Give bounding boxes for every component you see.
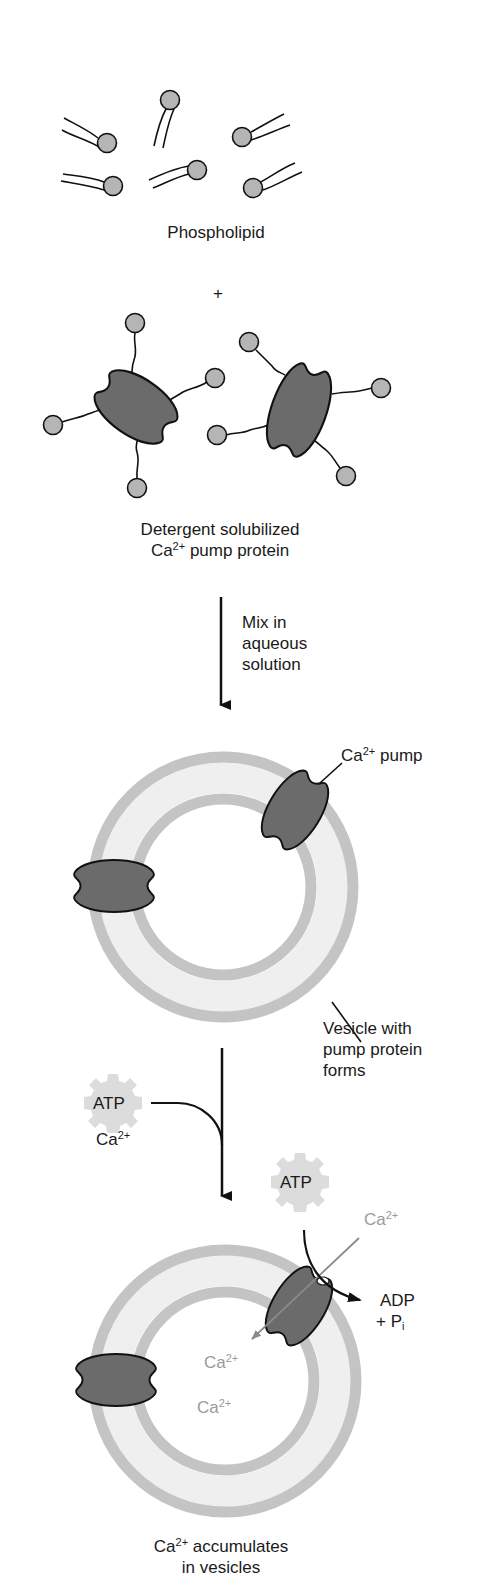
- adp-label: ADP: [380, 1290, 415, 1311]
- ca-inside-label-2: Ca2+: [197, 1397, 231, 1418]
- phospholipid-icon: [154, 91, 180, 149]
- detergent-protein-label: Detergent solubilized Ca2+ pump protein: [141, 519, 300, 561]
- ca-outside-label: Ca2+: [364, 1209, 398, 1230]
- detergent-protein-1: [44, 314, 225, 498]
- vesicle-1: [74, 757, 361, 1042]
- result-label: Ca2+ accumulates in vesicles: [154, 1536, 288, 1578]
- phospholipid-group: [61, 91, 302, 198]
- ca-inside-label-1: Ca2+: [204, 1352, 238, 1373]
- mix-step-label: Mix in aqueous solution: [242, 612, 307, 675]
- phospholipid-label: Phospholipid: [167, 222, 264, 243]
- atp-label-2: ATP: [280, 1172, 312, 1193]
- vesicle-2: [76, 1153, 360, 1512]
- ca-input-label: Ca2+: [96, 1129, 130, 1150]
- atp-label-1: ATP: [93, 1093, 125, 1114]
- phospholipid-icon: [62, 118, 117, 153]
- pi-label: + Pi: [376, 1311, 404, 1332]
- phospholipid-icon: [61, 174, 123, 196]
- detergent-protein-2: [208, 333, 391, 486]
- phospholipid-icon: [233, 114, 291, 147]
- atp-arrow: [84, 1048, 222, 1196]
- pump-protein-icon: [74, 860, 154, 912]
- plus-sign: +: [213, 283, 223, 304]
- pump-protein-icon: [76, 1354, 156, 1406]
- phospholipid-icon: [244, 163, 303, 198]
- phospholipid-icon: [149, 161, 207, 189]
- ca-pump-label: Ca2+ pump: [341, 745, 423, 766]
- vesicle-forms-label: Vesicle with pump protein forms: [323, 1018, 422, 1081]
